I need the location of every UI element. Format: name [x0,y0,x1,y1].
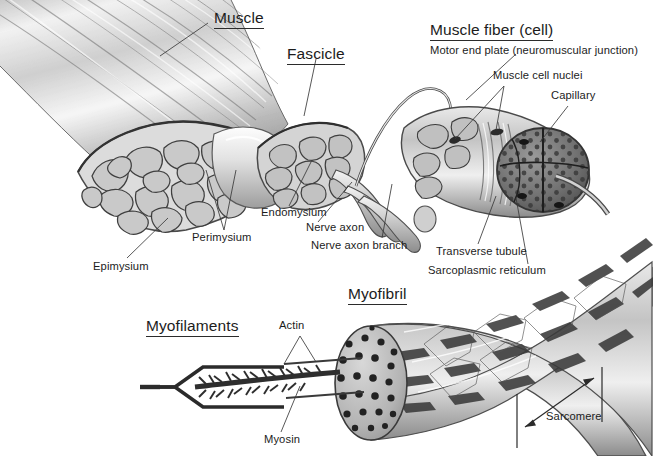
label-nerve-axon: Nerve axon [306,222,364,234]
label-muscle-cell-nuclei: Muscle cell nuclei [493,70,582,82]
label-motor-end-plate: Motor end plate (neuromuscular junction) [430,45,638,57]
label-myofibril: Myofibril [348,286,407,305]
figure-caption [226,450,426,456]
label-fascicle: Fascicle [287,46,345,65]
fascicle-illustration [257,123,364,209]
label-capillary: Capillary [551,90,595,102]
label-perimysium: Perimysium [192,232,251,244]
label-endomysium: Endomysium [261,207,327,219]
label-muscle: Muscle [214,10,264,29]
label-actin: Actin [279,320,304,332]
label-sarcoplasmic-reticulum: Sarcoplasmic reticulum [428,265,546,277]
label-muscle-fiber-cell: Muscle fiber (cell) [430,22,553,41]
label-transverse-tubule: Transverse tubule [436,246,527,258]
label-nerve-axon-branch: Nerve axon branch [311,240,407,252]
label-myofilaments: Myofilaments [146,318,239,337]
label-myosin: Myosin [264,434,300,446]
label-sarcomere: Sarcomere [546,411,602,423]
muscle-structure-figure: Muscle Fascicle Muscle fiber (cell) Myof… [0,0,653,456]
label-epimysium: Epimysium [93,261,149,273]
